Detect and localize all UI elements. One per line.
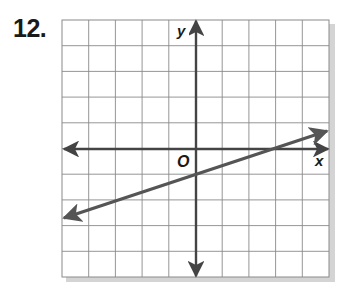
- coordinate-graph: y x O: [0, 0, 339, 291]
- y-axis-label: y: [176, 22, 186, 39]
- origin-label: O: [177, 153, 190, 170]
- x-axis-label: x: [314, 152, 324, 169]
